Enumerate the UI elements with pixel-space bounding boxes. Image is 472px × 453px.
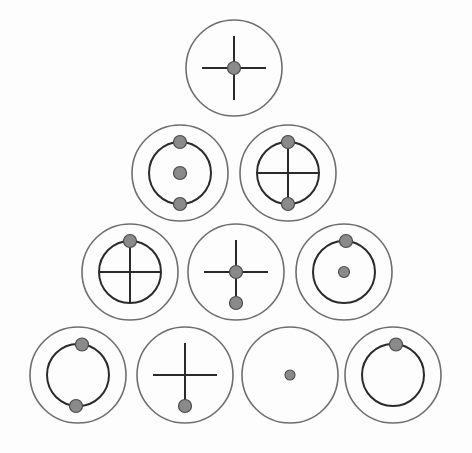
orbital-figure xyxy=(345,327,441,423)
diagram-canvas xyxy=(0,0,472,453)
top-dot xyxy=(340,235,353,248)
orbital-figure xyxy=(132,125,228,221)
inner-circle xyxy=(362,344,424,406)
bottom-dot xyxy=(70,400,83,413)
center-dot xyxy=(285,370,295,380)
lower-dot xyxy=(230,297,243,310)
orbital-figure xyxy=(186,20,282,116)
orbital-figure xyxy=(296,224,392,320)
bottom-dot xyxy=(179,400,192,413)
inner-circle xyxy=(47,344,109,406)
top-dot xyxy=(282,136,295,149)
orbital-figure xyxy=(188,224,284,320)
orbital-figure xyxy=(137,327,233,423)
center-dot xyxy=(230,266,243,279)
figures-layer xyxy=(30,20,441,423)
orbital-figure xyxy=(240,125,336,221)
center-dot xyxy=(174,167,187,180)
top-dot xyxy=(76,338,89,351)
orbital-pyramid-figure xyxy=(0,0,472,453)
orbital-figure xyxy=(242,327,338,423)
orbital-figure xyxy=(30,327,126,423)
orbital-figure xyxy=(82,224,178,320)
top-dot xyxy=(174,136,187,149)
bottom-dot xyxy=(174,198,187,211)
top-dot xyxy=(390,338,403,351)
bottom-dot xyxy=(282,198,295,211)
top-dot xyxy=(124,235,137,248)
center-dot xyxy=(228,62,241,75)
center-dot xyxy=(339,267,350,278)
